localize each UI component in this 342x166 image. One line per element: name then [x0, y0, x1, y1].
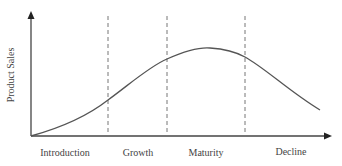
sales-curve	[31, 48, 320, 136]
y-axis-arrow-icon	[28, 11, 35, 19]
y-axis-label: Product Sales	[5, 48, 16, 103]
stage-label-introduction: Introduction	[40, 147, 89, 158]
x-axis-arrow-icon	[324, 133, 332, 140]
product-life-cycle-diagram: Product Sales Introduction Growth Maturi…	[0, 0, 342, 166]
stage-label-decline: Decline	[275, 146, 307, 157]
stage-label-maturity: Maturity	[189, 147, 224, 158]
diagram-canvas: Product Sales Introduction Growth Maturi…	[0, 0, 342, 166]
stage-label-growth: Growth	[123, 147, 154, 158]
